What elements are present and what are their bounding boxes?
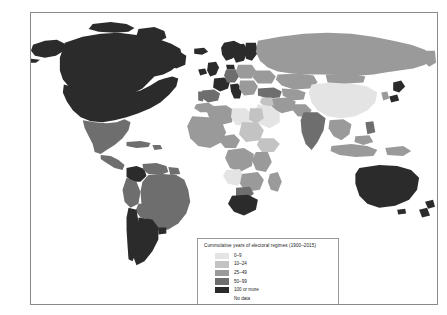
region-new-zealand-south [419, 208, 430, 218]
region-caribbean [127, 141, 151, 148]
region-ethiopia [257, 138, 280, 152]
region-cuba-east [152, 145, 162, 150]
region-denmark [226, 65, 235, 70]
legend-label-25-49: 25–49 [234, 270, 247, 276]
region-australia [355, 165, 419, 208]
legend-title: Cummulative years of electoral regimes (… [204, 243, 333, 249]
legend-swatch-100-or-more [215, 287, 229, 293]
region-portugal [198, 91, 203, 101]
region-southeast-asia [329, 119, 352, 140]
region-tasmania [397, 209, 406, 215]
region-mexico [83, 119, 131, 154]
region-new-guinea [385, 146, 411, 156]
region-india [301, 112, 326, 150]
legend-swatch-10-24 [215, 261, 229, 267]
region-balkans [239, 81, 258, 96]
region-china [309, 83, 378, 119]
region-japan [393, 81, 405, 93]
region-ireland [198, 69, 207, 76]
legend-label-10-24: 10–24 [234, 261, 247, 267]
region-philippines [365, 121, 375, 134]
legend-swatch-25-49 [215, 270, 229, 276]
region-aleutians [31, 59, 40, 63]
legend-label-50-99: 50–99 [234, 279, 247, 285]
region-spain [201, 89, 220, 102]
legend-swatch-no-data [215, 296, 229, 302]
region-dr-congo [225, 148, 254, 172]
region-korea [381, 91, 389, 100]
world-map-frame: Cummulative years of electoral regimes (… [30, 12, 438, 305]
region-united-kingdom [207, 62, 219, 77]
region-turkey [258, 87, 282, 98]
region-ukraine [253, 71, 276, 84]
region-south-africa [228, 195, 258, 216]
legend-swatch-0-9 [215, 253, 229, 259]
region-south-america [123, 163, 191, 265]
region-north-america [31, 22, 186, 170]
region-canada-arctic-islands [89, 22, 135, 33]
region-bolivia [135, 204, 154, 220]
map-legend: Cummulative years of electoral regimes (… [197, 238, 339, 305]
region-madagascar [268, 172, 282, 192]
region-russia [256, 33, 431, 76]
legend-item-no-data: No data [215, 294, 333, 303]
region-peru [123, 178, 141, 208]
region-guyanas [168, 167, 180, 175]
region-borneo [354, 135, 373, 145]
legend-label-0-9: 0–9 [234, 253, 242, 259]
region-north-asia [256, 33, 436, 76]
legend-swatch-50-99 [215, 278, 229, 284]
region-venezuela [142, 163, 168, 175]
region-alaska [31, 40, 65, 58]
region-poland-baltics [236, 65, 256, 79]
region-central-america [101, 155, 125, 170]
region-nigeria [220, 134, 240, 148]
figure-container: Cummulative years of electoral regimes (… [0, 0, 447, 315]
legend-label-100-or-more: 100 or more [234, 287, 259, 293]
legend-label-no-data: No data [234, 296, 250, 302]
region-indonesia [331, 144, 378, 157]
legend-item-100-or-more: 100 or more [215, 286, 333, 295]
legend-item-10-24: 10–24 [215, 260, 333, 269]
region-japan-south [389, 94, 399, 102]
region-new-zealand-north [425, 200, 435, 209]
region-iceland [194, 48, 208, 55]
region-uruguay [158, 228, 166, 235]
region-oceania [355, 165, 435, 218]
legend-item-25-49: 25–49 [215, 269, 333, 278]
legend-item-0-9: 0–9 [215, 252, 333, 261]
region-kenya-tanzania [252, 152, 272, 172]
legend-item-50-99: 50–99 [215, 277, 333, 286]
